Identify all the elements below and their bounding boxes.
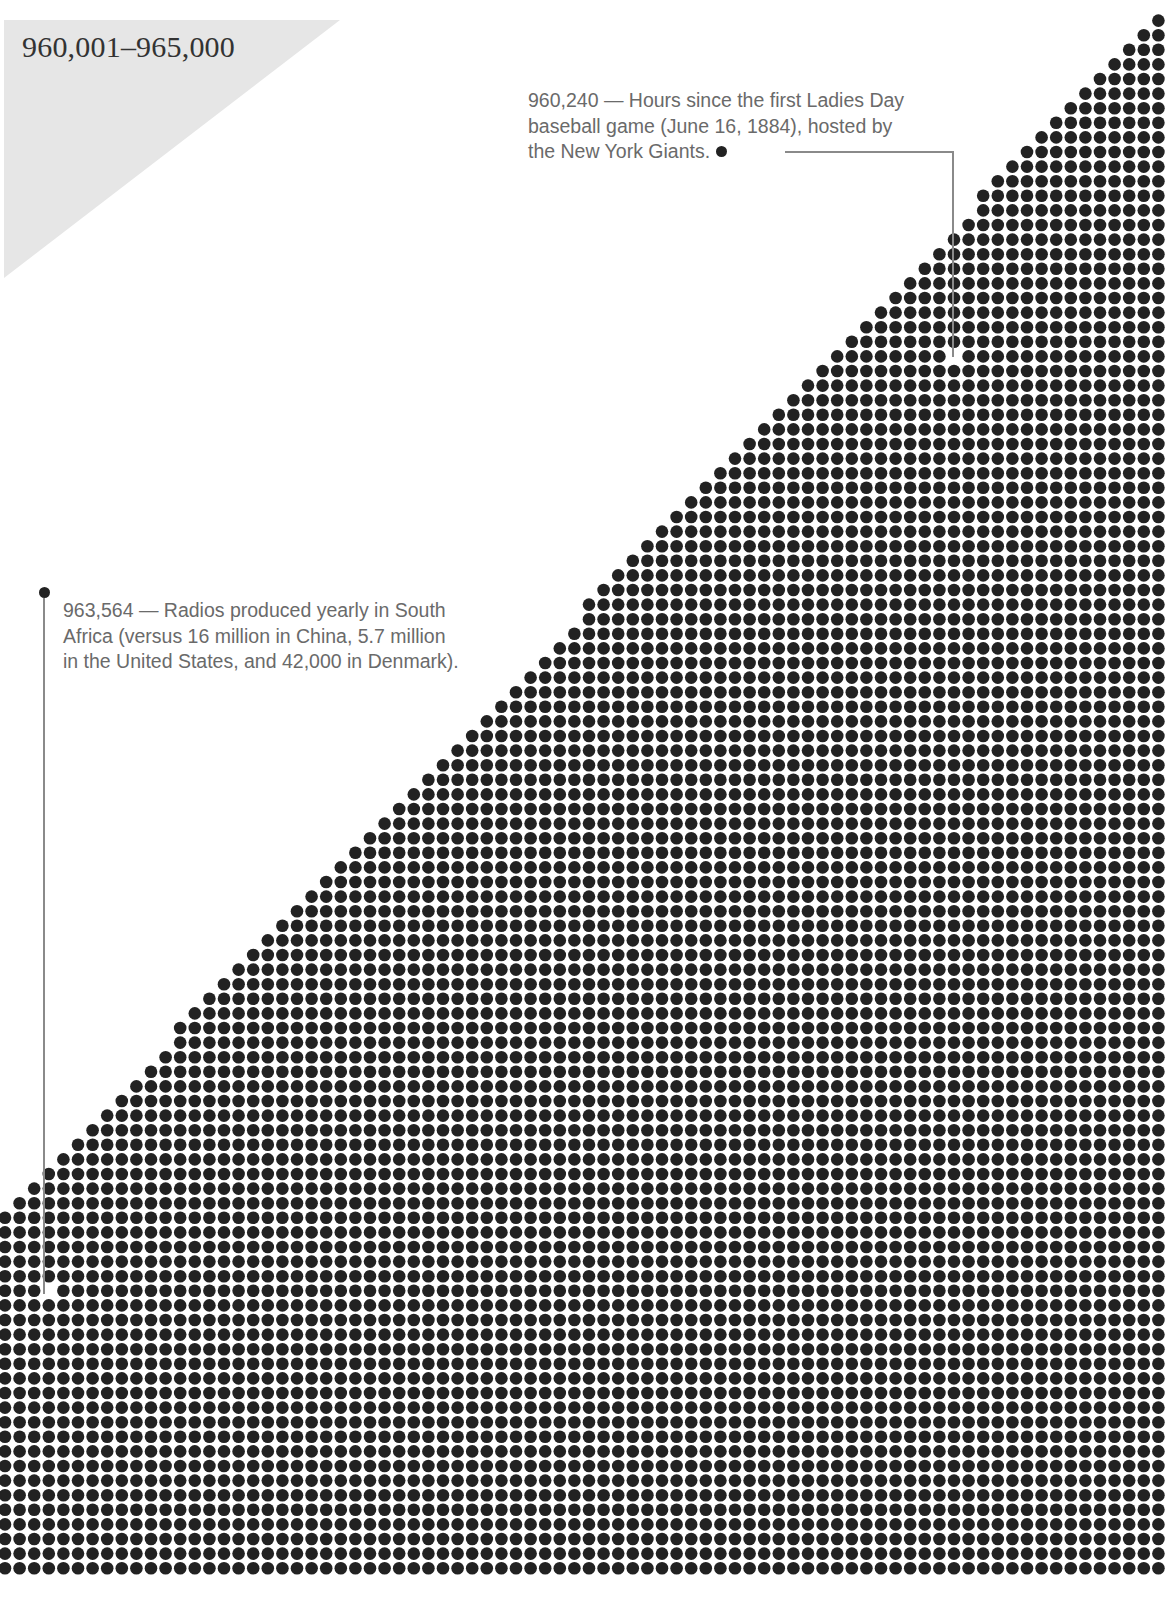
unit-dot [962, 1080, 975, 1093]
unit-dot [889, 1372, 902, 1385]
unit-dot [232, 1474, 245, 1487]
unit-dot [641, 642, 654, 655]
unit-dot [758, 1401, 771, 1414]
unit-dot [919, 1007, 932, 1020]
unit-dot [729, 1445, 742, 1458]
unit-dot [1079, 1431, 1092, 1444]
unit-dot [145, 1387, 158, 1400]
unit-dot [495, 1182, 508, 1195]
unit-dot [948, 1124, 961, 1137]
unit-dot [378, 1051, 391, 1064]
unit-dot [189, 1051, 202, 1064]
unit-dot [919, 832, 932, 845]
unit-dot [992, 248, 1005, 261]
unit-dot [714, 1109, 727, 1122]
unit-dot [875, 861, 888, 874]
unit-dot [189, 1139, 202, 1152]
unit-dot [889, 832, 902, 845]
unit-dot [700, 1168, 713, 1181]
unit-dot [1123, 219, 1136, 232]
unit-dot [1108, 1387, 1121, 1400]
unit-dot [1138, 1445, 1151, 1458]
unit-dot [466, 920, 479, 933]
unit-dot [437, 861, 450, 874]
unit-dot [714, 715, 727, 728]
unit-dot [101, 1489, 114, 1502]
unit-dot [495, 1504, 508, 1517]
unit-dot [203, 1343, 216, 1356]
unit-dot [28, 1489, 41, 1502]
unit-dot [597, 774, 610, 787]
unit-dot [919, 540, 932, 553]
unit-dot [218, 1547, 231, 1560]
unit-dot [335, 1197, 348, 1210]
unit-dot [612, 817, 625, 830]
unit-dot [714, 1358, 727, 1371]
unit-dot [948, 540, 961, 553]
unit-dot [320, 1197, 333, 1210]
unit-dot [889, 336, 902, 349]
unit-dot [1035, 788, 1048, 801]
unit-dot [408, 1387, 421, 1400]
unit-dot [1021, 1562, 1034, 1575]
unit-dot [685, 1168, 698, 1181]
unit-dot [568, 1212, 581, 1225]
unit-dot [831, 993, 844, 1006]
unit-dot [276, 1387, 289, 1400]
unit-dot [977, 540, 990, 553]
unit-dot [700, 920, 713, 933]
unit-dot [101, 1358, 114, 1371]
unit-dot [524, 993, 537, 1006]
unit-dot [1065, 394, 1078, 407]
unit-dot [802, 861, 815, 874]
unit-dot [1065, 1562, 1078, 1575]
unit-dot [670, 1285, 683, 1298]
unit-dot [408, 1153, 421, 1166]
unit-dot [1152, 58, 1165, 71]
unit-dot [1138, 58, 1151, 71]
unit-dot [743, 1460, 756, 1473]
unit-dot [232, 1431, 245, 1444]
unit-dot [305, 1095, 318, 1108]
unit-dot [1108, 219, 1121, 232]
unit-dot [1152, 701, 1165, 714]
unit-dot [101, 1343, 114, 1356]
unit-dot [831, 482, 844, 495]
unit-dot [72, 1343, 85, 1356]
unit-dot [773, 438, 786, 451]
unit-dot [773, 657, 786, 670]
unit-dot [992, 861, 1005, 874]
unit-dot [641, 744, 654, 757]
unit-dot [276, 1109, 289, 1122]
unit-dot [422, 1022, 435, 1035]
unit-dot [1065, 102, 1078, 115]
unit-dot [0, 1372, 11, 1385]
unit-dot [510, 1036, 523, 1049]
unit-dot [685, 569, 698, 582]
unit-dot [875, 1314, 888, 1327]
unit-dot [875, 613, 888, 626]
unit-dot [787, 1518, 800, 1531]
unit-dot [992, 1226, 1005, 1239]
unit-dot [101, 1124, 114, 1137]
unit-dot [919, 584, 932, 597]
unit-dot [335, 1328, 348, 1341]
unit-dot [597, 890, 610, 903]
unit-dot [554, 1314, 567, 1327]
unit-dot [1021, 569, 1034, 582]
unit-dot [524, 1358, 537, 1371]
unit-dot [510, 890, 523, 903]
unit-dot [1065, 584, 1078, 597]
unit-dot [1006, 204, 1019, 217]
unit-dot [1094, 803, 1107, 816]
unit-dot [977, 657, 990, 670]
unit-dot [743, 1226, 756, 1239]
unit-dot [831, 876, 844, 889]
unit-dot [714, 1489, 727, 1502]
unit-dot [962, 1533, 975, 1546]
unit-dot [773, 774, 786, 787]
unit-dot [860, 569, 873, 582]
unit-dot [1050, 555, 1063, 568]
unit-dot [1094, 1168, 1107, 1181]
unit-dot [1094, 1328, 1107, 1341]
